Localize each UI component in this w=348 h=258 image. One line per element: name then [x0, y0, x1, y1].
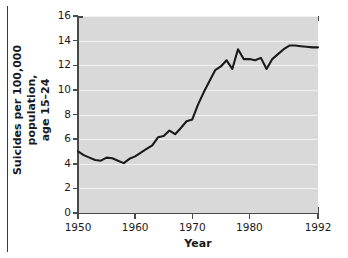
x-axis-title: Year	[78, 237, 318, 250]
data-series-layer	[0, 0, 348, 258]
series-line-suicide-rate	[78, 46, 318, 164]
chart-figure: Suicides per 100,000 population, age 15–…	[0, 0, 348, 258]
